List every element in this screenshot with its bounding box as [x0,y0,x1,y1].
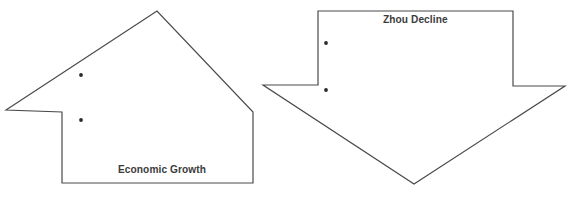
economic-growth-label: Economic Growth [118,163,206,175]
zhou-decline-dot-upper [324,41,328,45]
economic-growth-arrow-shape [6,11,253,183]
arrows-diagram-svg [0,0,577,197]
economic-growth-dot-lower [79,118,83,122]
diagram-canvas: Economic Growth Zhou Decline [0,0,577,197]
zhou-decline-label: Zhou Decline [383,13,448,25]
zhou-decline-arrow-shape [263,11,565,184]
zhou-decline-dot-lower [324,88,328,92]
economic-growth-dot-upper [79,73,83,77]
